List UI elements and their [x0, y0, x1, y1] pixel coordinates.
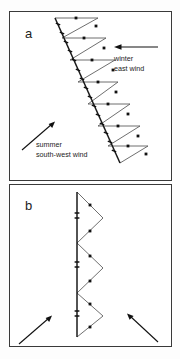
spine-tick [56, 23, 60, 25]
panel-b-right-arrow-icon [127, 314, 158, 343]
data-point-marker [89, 280, 92, 283]
figure-container: a b winter east wind summer south-west w… [0, 0, 180, 359]
data-point-marker [89, 326, 92, 329]
data-point-marker [103, 47, 106, 50]
spine-tick [76, 69, 80, 71]
spine-tick [88, 96, 92, 98]
panel-a-sawtooth-tooth [78, 82, 118, 104]
data-point-marker [115, 91, 118, 94]
data-point-marker [112, 69, 115, 72]
spine-tick [104, 132, 108, 134]
trajectory-vector-layer [0, 0, 180, 359]
trajectory-traces [55, 18, 148, 337]
spine-tick [72, 59, 76, 61]
summer-south-west-wind-arrow-icon [22, 122, 55, 151]
spine-tick [60, 32, 64, 34]
data-point-marker [137, 135, 140, 138]
data-point-marker [117, 125, 120, 128]
spine-tick [64, 41, 68, 43]
data-point-marker [89, 204, 92, 207]
spine-tick-marks [56, 23, 116, 316]
panel-b-sawtooth-tooth [77, 293, 103, 337]
data-point-marker [145, 153, 148, 156]
data-point-marker [127, 145, 130, 148]
data-point-marker [75, 17, 78, 20]
spine-tick [92, 105, 96, 107]
data-point-marker [83, 37, 86, 40]
data-point-marker [95, 25, 98, 28]
panel-a-sawtooth-tooth [70, 60, 115, 82]
data-point-marker [89, 255, 92, 258]
spine-tick [108, 141, 112, 143]
panel-a-spine [55, 18, 120, 163]
spine-tick [84, 87, 88, 89]
panel-b-sawtooth-tooth [77, 192, 103, 243]
spine-tick [112, 150, 116, 152]
data-point-marker [97, 81, 100, 84]
data-point-markers [75, 17, 148, 329]
spine-tick [96, 114, 100, 116]
data-point-marker [89, 230, 92, 233]
data-point-marker [91, 59, 94, 62]
panel-a-sawtooth-tooth [55, 18, 98, 38]
data-point-marker [107, 103, 110, 106]
winter-east-wind-arrow-icon [114, 44, 158, 50]
panel-b-sawtooth-tooth [77, 243, 103, 293]
data-point-marker [127, 113, 130, 116]
spine-tick [68, 50, 72, 52]
panel-b-left-arrow-icon [19, 316, 52, 345]
trajectory-spines [55, 18, 120, 337]
data-point-marker [89, 303, 92, 306]
